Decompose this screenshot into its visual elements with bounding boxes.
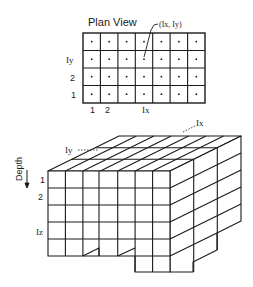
plan-grid bbox=[83, 33, 205, 103]
depth-label: Depth bbox=[14, 157, 24, 181]
depth-label-1: 1 bbox=[40, 175, 45, 185]
depth-label-iz: Iz bbox=[36, 227, 43, 237]
row-label-iy: Iy bbox=[66, 55, 74, 65]
plan-view-title: Plan View bbox=[88, 16, 137, 28]
diagram-canvas: Plan View (Ix, Iy) Iy 2 1 1 2 Ix bbox=[0, 0, 253, 287]
row-label-2: 2 bbox=[70, 73, 75, 83]
col-label-1: 1 bbox=[90, 105, 95, 115]
col-label-2: 2 bbox=[105, 105, 110, 115]
callout-label: (Ix, Iy) bbox=[159, 20, 182, 29]
callout-leader bbox=[144, 24, 158, 57]
row-label-1: 1 bbox=[71, 90, 76, 100]
plan-view: Plan View (Ix, Iy) Iy 2 1 1 2 Ix bbox=[66, 16, 205, 115]
block-label-ix: Ix bbox=[196, 118, 204, 128]
depth-label-2: 2 bbox=[38, 192, 43, 202]
block-label-iy: Iy bbox=[65, 145, 73, 155]
col-label-ix: Ix bbox=[142, 105, 150, 115]
depth-arrow-icon bbox=[25, 170, 29, 188]
block-view bbox=[48, 136, 241, 272]
